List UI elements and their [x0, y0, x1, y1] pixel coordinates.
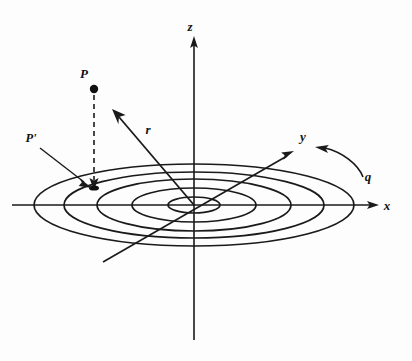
point-p-dot	[90, 85, 98, 93]
physics-diagram: z x y P P' r q	[0, 0, 412, 361]
point-label-pprime: P'	[25, 131, 37, 145]
r-vector-group	[112, 109, 194, 205]
axis-label-x: x	[383, 198, 391, 213]
charge-label-q: q	[365, 169, 372, 184]
figure-root: z x y P P' r q	[0, 0, 412, 361]
pprime-leader-arrowhead	[79, 178, 92, 188]
axis-label-y: y	[298, 129, 306, 144]
dashed-drop-group	[89, 95, 99, 191]
q-arc-group	[315, 145, 363, 177]
pprime-leader-group	[40, 148, 92, 188]
axis-label-z: z	[186, 19, 193, 34]
q-rotation-arc	[325, 148, 363, 177]
vector-label-r: r	[145, 122, 151, 137]
pprime-marker	[89, 185, 99, 190]
pprime-leader-line	[40, 148, 84, 182]
point-label-p: P	[80, 66, 89, 81]
